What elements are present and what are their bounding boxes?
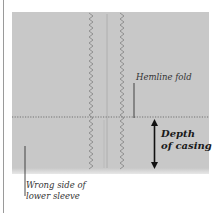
hemline-fold-label: Hemline fold: [136, 72, 192, 82]
wrong-side-label-line2: lower sleeve: [26, 191, 86, 202]
depth-label-line1: Depth: [161, 128, 212, 140]
depth-label-line2: of casing: [161, 140, 212, 152]
depth-arrow-icon: [151, 119, 158, 169]
wrong-side-label: Wrong side of lower sleeve: [26, 180, 86, 202]
wrong-side-label-line1: Wrong side of: [26, 180, 86, 191]
zigzag-stitch-left: [89, 13, 124, 169]
depth-of-casing-label: Depth of casing: [161, 128, 212, 152]
